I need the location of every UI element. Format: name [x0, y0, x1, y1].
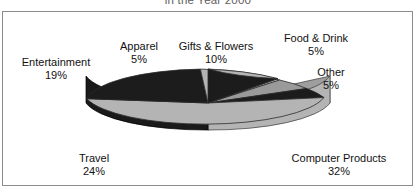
pie-label-gifts-and-flowers: Gifts & Flowers 10% — [162, 40, 270, 65]
pie-label-food-and-drink-name: Food & Drink — [284, 32, 348, 44]
pie-label-computer-products-name: Computer Products — [292, 152, 387, 164]
pie-label-entertainment-percent: 19% — [8, 69, 104, 82]
chart-title: in the Year 2000 — [0, 0, 416, 5]
pie-label-other: Other 5% — [300, 66, 362, 91]
pie-label-gifts-and-flowers-percent: 10% — [162, 53, 270, 66]
pie-label-other-percent: 5% — [300, 79, 362, 92]
pie-label-travel: Travel 24% — [62, 152, 126, 177]
chart-screenshot: in the Year 2000 — [0, 0, 416, 193]
pie-label-entertainment-name: Entertainment — [22, 56, 90, 68]
pie-label-gifts-and-flowers-name: Gifts & Flowers — [179, 40, 254, 52]
pie-label-apparel: Apparel 5% — [108, 40, 170, 65]
pie-label-other-name: Other — [317, 66, 345, 78]
pie-label-entertainment: Entertainment 19% — [8, 56, 104, 81]
pie-label-food-and-drink-percent: 5% — [268, 45, 364, 58]
pie-label-computer-products-percent: 32% — [272, 165, 406, 178]
pie-label-travel-percent: 24% — [62, 165, 126, 178]
pie-label-computer-products: Computer Products 32% — [272, 152, 406, 177]
pie-label-apparel-percent: 5% — [108, 53, 170, 66]
pie-label-food-and-drink: Food & Drink 5% — [268, 32, 364, 57]
pie-label-travel-name: Travel — [79, 152, 109, 164]
pie-label-apparel-name: Apparel — [120, 40, 158, 52]
